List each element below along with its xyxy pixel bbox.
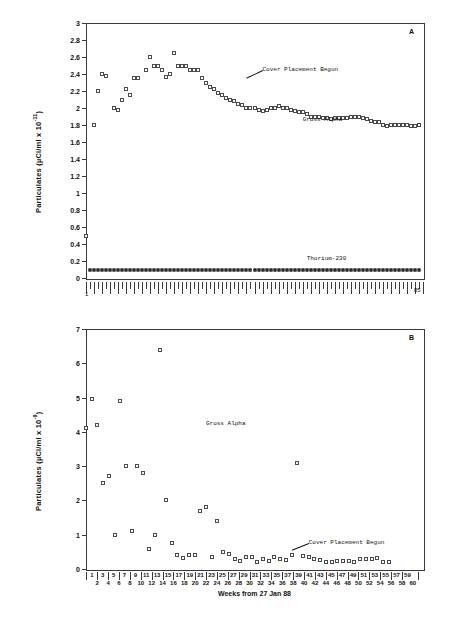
data-point [364, 557, 368, 561]
data-point [95, 423, 99, 427]
x-axis-separator [217, 572, 218, 580]
data-point [255, 560, 259, 564]
data-point [307, 555, 311, 559]
data-point [244, 555, 248, 559]
data-point [347, 559, 351, 563]
x-axis-label-even: 32 [257, 580, 264, 586]
x-axis-separator [348, 572, 349, 580]
y-axis-tick-label: 0 [52, 566, 80, 573]
data-point [261, 557, 265, 561]
y-axis-tick [82, 535, 86, 536]
x-axis-separator [260, 572, 261, 580]
x-axis-label-odd: 49 [350, 572, 357, 578]
data-point [187, 553, 191, 557]
x-axis-separator [239, 572, 240, 580]
x-axis-separator [337, 572, 338, 580]
panel-b: B 01234567Particulates (µCi/ml x 10-9)Gr… [0, 0, 461, 625]
x-axis-label-odd: 39 [295, 572, 302, 578]
x-axis-label-odd: 17 [176, 572, 183, 578]
x-axis-separator [315, 572, 316, 580]
x-axis-label-even: 20 [192, 580, 199, 586]
x-axis-separator [97, 572, 98, 580]
data-point [193, 553, 197, 557]
data-point [130, 529, 134, 533]
data-point [375, 556, 379, 560]
x-axis-separator [119, 572, 120, 580]
x-axis-separator [195, 572, 196, 580]
x-axis-label-even: 6 [117, 580, 120, 586]
x-axis-label-even: 34 [268, 580, 275, 586]
x-axis-label-odd: 45 [328, 572, 335, 578]
x-axis-label-odd: 21 [197, 572, 204, 578]
data-point [370, 557, 374, 561]
data-point [290, 553, 294, 557]
y-axis-tick-label: 5 [52, 394, 80, 401]
x-axis-separator [418, 572, 419, 580]
x-axis-separator [152, 572, 153, 580]
panel-b-plot-area [86, 329, 425, 571]
x-axis-label-odd: 43 [317, 572, 324, 578]
data-point [387, 560, 391, 564]
data-point [107, 474, 111, 478]
x-axis-label-even: 22 [203, 580, 210, 586]
data-point [90, 397, 94, 401]
y-axis-tick [82, 432, 86, 433]
x-axis-label-odd: 53 [371, 572, 378, 578]
x-axis-separator [358, 572, 359, 580]
data-point [135, 464, 139, 468]
x-axis-label-odd: 55 [382, 572, 389, 578]
data-point [318, 558, 322, 562]
x-axis-separator [228, 572, 229, 580]
x-axis-label-even: 50 [355, 580, 362, 586]
x-axis-separator [380, 572, 381, 580]
data-point [181, 556, 185, 560]
y-axis-tick-label: 3 [52, 463, 80, 470]
y-axis-tick [82, 329, 86, 330]
data-point [324, 560, 328, 564]
x-axis-label-odd: 31 [252, 572, 259, 578]
x-axis-separator [163, 572, 164, 580]
x-axis-separator [130, 572, 131, 580]
data-point [272, 555, 276, 559]
data-point [84, 426, 88, 430]
data-point [341, 559, 345, 563]
data-point [204, 505, 208, 509]
annotation-gross-alpha: Gross Alpha [206, 420, 246, 427]
y-axis-title: Particulates (µCi/ml x 10-9) [32, 412, 43, 511]
x-axis-label-odd: 29 [241, 572, 248, 578]
data-point [312, 557, 316, 561]
y-axis-tick [82, 363, 86, 364]
x-axis-label-even: 10 [137, 580, 144, 586]
data-point [278, 557, 282, 561]
x-axis-separator [369, 572, 370, 580]
y-axis-tick [82, 466, 86, 467]
x-axis-label-even: 42 [312, 580, 319, 586]
data-point [267, 559, 271, 563]
data-point [352, 560, 356, 564]
x-axis-label-even: 52 [366, 580, 373, 586]
data-point [330, 560, 334, 564]
y-axis-tick-label: 7 [52, 326, 80, 333]
x-axis-label-odd: 41 [306, 572, 313, 578]
x-axis-label-odd: 35 [273, 572, 280, 578]
data-point [147, 547, 151, 551]
panel-b-letter: B [409, 334, 414, 341]
data-point [164, 498, 168, 502]
x-axis-separator [326, 572, 327, 580]
y-axis-tick-label: 6 [52, 360, 80, 367]
data-point [295, 461, 299, 465]
x-axis-separator [250, 572, 251, 580]
y-axis-tick-label: 2 [52, 497, 80, 504]
x-axis-label-odd: 3 [101, 572, 104, 578]
x-axis-label-even: 46 [333, 580, 340, 586]
data-point [118, 399, 122, 403]
data-point [215, 519, 219, 523]
x-axis-label-even: 48 [344, 580, 351, 586]
x-axis-label-odd: 23 [208, 572, 215, 578]
y-axis-tick [82, 398, 86, 399]
data-point [158, 348, 162, 352]
x-axis-separator [271, 572, 272, 580]
x-axis-separator [184, 572, 185, 580]
data-point [198, 509, 202, 513]
y-axis-tick [82, 500, 86, 501]
